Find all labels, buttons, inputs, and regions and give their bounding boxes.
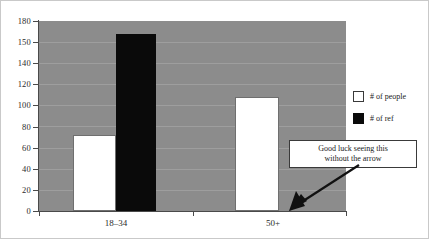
chart-figure: 180 150 140 120 100 80 60 40 20 0 18–34 … xyxy=(0,0,429,239)
legend-label-ref: # of ref xyxy=(370,114,394,123)
y-tick xyxy=(33,190,38,191)
y-tick-label: 140 xyxy=(18,59,31,68)
y-tick-label: 20 xyxy=(22,186,31,195)
y-tick xyxy=(33,84,38,85)
y-tick-label: 120 xyxy=(18,80,31,89)
y-tick xyxy=(33,127,38,128)
gridline xyxy=(39,126,346,127)
y-tick-label: 80 xyxy=(22,123,31,132)
y-tick xyxy=(33,148,38,149)
y-tick xyxy=(33,21,38,22)
y-tick xyxy=(33,169,38,170)
bar-people-18-34 xyxy=(73,135,116,211)
legend-item-people: # of people xyxy=(353,91,427,102)
gridline xyxy=(39,42,346,43)
y-tick xyxy=(33,211,38,212)
y-tick xyxy=(33,105,38,106)
y-tick xyxy=(33,63,38,64)
y-tick-label: 60 xyxy=(22,144,31,153)
legend-swatch-black-square xyxy=(353,113,364,124)
gridline xyxy=(39,105,346,106)
annotation-callout: Good luck seeing this without the arrow xyxy=(289,140,417,168)
y-tick-label: 40 xyxy=(22,165,31,174)
y-tick-label: 100 xyxy=(18,101,31,110)
x-axis-labels: 18–34 50+ xyxy=(1,215,429,235)
x-tick-label-50plus: 50+ xyxy=(266,219,280,228)
y-tick-label: 150 xyxy=(18,38,31,47)
gridline xyxy=(39,63,346,64)
annotation-line-2: without the arrow xyxy=(294,154,412,164)
legend-item-ref: # of ref xyxy=(353,113,427,124)
y-tick-label: 180 xyxy=(18,17,31,26)
x-tick xyxy=(346,211,347,216)
gridline xyxy=(39,84,346,85)
y-axis-line xyxy=(38,20,39,212)
legend: # of people # of ref xyxy=(353,91,427,135)
plot-area xyxy=(39,21,346,211)
bar-people-50plus xyxy=(235,97,279,211)
y-tick xyxy=(33,42,38,43)
legend-swatch-white-square xyxy=(353,91,364,102)
legend-label-people: # of people xyxy=(370,92,406,101)
x-tick-label-18-34: 18–34 xyxy=(105,219,128,228)
x-tick xyxy=(39,211,40,216)
bar-ref-18-34 xyxy=(116,34,156,211)
y-axis-labels: 180 150 140 120 100 80 60 40 20 0 xyxy=(1,1,38,239)
x-tick xyxy=(193,211,194,216)
annotation-line-1: Good luck seeing this xyxy=(294,144,412,154)
